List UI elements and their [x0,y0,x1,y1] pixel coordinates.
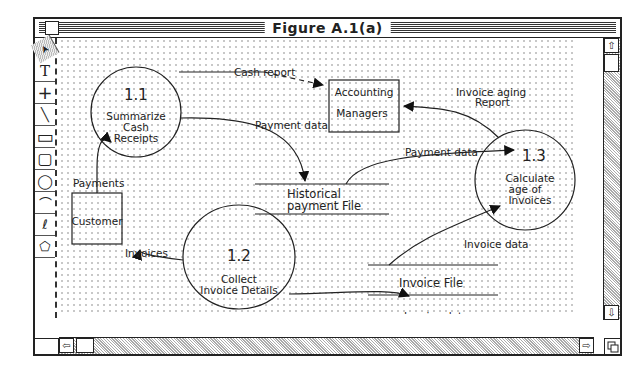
entity-accounting-label-2: Managers [336,107,388,119]
store-invoice-file-label: Invoice File [399,276,463,290]
process-1-1-line-3: Receipts [114,132,159,144]
vertical-scroll-thumb[interactable] [604,54,619,72]
flow-invoice-data-2: Invoice data [404,310,469,314]
title-bar[interactable]: Figure A.1(a) [35,19,620,38]
scroll-up-button[interactable]: ⇧ [604,38,619,53]
scroll-down-button[interactable]: ⇩ [604,305,619,320]
window-title: Figure A.1(a) [264,19,391,37]
process-1-2-line-2: Invoice Details [200,284,277,296]
crosshair-tool-icon[interactable]: + [35,82,55,104]
scroll-right-button[interactable]: ⇨ [579,338,594,353]
flow-cash-report: Cash report [234,66,295,78]
line-tool-icon[interactable]: ╲ [35,104,55,126]
process-1-3-id: 1.3 [522,147,546,165]
arrow-tool-icon[interactable]: ➤ [30,35,59,63]
scroll-left-button[interactable]: ⇦ [59,338,74,353]
store-historical-label-2: payment File [287,199,361,213]
close-box[interactable] [45,21,59,35]
flow-payment-data-1: Payment data [255,119,328,131]
process-1-3-line-3: Invoices [508,194,551,206]
oval-tool-icon[interactable]: ◯ [35,170,55,192]
entity-accounting-label-1: Accounting [335,86,394,98]
figure-window: Figure A.1(a) ➤ T + ╲ ▭ ▢ ◯ ⌒ ℓ ⬠ [33,17,622,356]
resize-grow-box[interactable] [604,338,620,354]
tool-palette: ➤ T + ╲ ▭ ▢ ◯ ⌒ ℓ ⬠ [35,38,57,318]
text-tool-icon[interactable]: T [35,60,55,82]
flow-report: Report [475,96,510,108]
arc-tool-icon[interactable]: ⌒ [35,192,55,214]
flow-invoice-data-1: Invoice data [464,238,529,250]
drawing-canvas[interactable]: 1.1 Summarize Cash Receipts 1.2 Collect … [59,38,577,314]
flow-payments: Payments [73,177,124,189]
vertical-scrollbar[interactable]: ⇧ ⇩ [603,38,620,320]
flow-invoices: Invoices [125,247,168,259]
rounded-rectangle-tool-icon[interactable]: ▢ [35,148,55,170]
flow-payment-data-2: Payment data [405,146,478,158]
horizontal-scroll-thumb[interactable] [76,338,94,353]
entity-customer-label: Customer [71,215,123,227]
process-1-1-id: 1.1 [124,86,148,104]
page-view-box[interactable] [35,338,59,354]
polygon-tool-icon[interactable]: ⬠ [35,236,55,258]
freehand-tool-icon[interactable]: ℓ [35,214,55,236]
dfd-diagram: 1.1 Summarize Cash Receipts 1.2 Collect … [59,38,577,314]
horizontal-scrollbar[interactable]: ⇦ ⇨ [59,337,594,354]
process-1-2-id: 1.2 [227,247,251,265]
rectangle-tool-icon[interactable]: ▭ [35,126,55,148]
grow-icon [605,339,620,354]
